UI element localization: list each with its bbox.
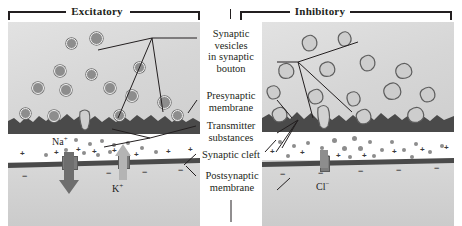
potassium-channel — [118, 155, 130, 169]
sodium-charge: + — [64, 135, 68, 143]
charge-negative: − — [358, 167, 363, 175]
label-postsynaptic-membrane: Postsynaptic membrane — [196, 170, 268, 193]
label-presynaptic-membrane: Presynaptic membrane — [196, 90, 266, 113]
charge-negative: − — [280, 170, 285, 178]
transmitter-dot — [44, 153, 48, 157]
charge-positive: + — [420, 146, 425, 154]
charge-positive: + — [20, 150, 25, 158]
synapse-diagram: Excitatory Inhibitory — [0, 0, 462, 226]
label-line: substances — [196, 132, 266, 144]
label-transmitter-substances: Transmitter substances — [196, 120, 266, 143]
transmitter-dot — [306, 141, 310, 145]
vesicle — [126, 90, 138, 102]
label-line: Postsynaptic — [196, 170, 268, 182]
vesicle — [114, 110, 125, 121]
panel-inhibitory: + + + + + + + − − − − − Cl− — [262, 22, 454, 226]
vesicle — [54, 65, 66, 77]
transmitter-dot — [428, 150, 432, 154]
label-synaptic-vesicles: Synaptic vesicles in synaptic bouton — [198, 28, 264, 74]
charge-positive: + — [300, 149, 305, 157]
label-line: vesicles — [198, 40, 264, 52]
vesicle — [90, 32, 103, 45]
charge-positive: + — [76, 146, 81, 154]
charge-negative: − — [64, 171, 69, 179]
vesicle — [20, 108, 31, 119]
transmitter-dot — [320, 146, 324, 150]
charge-positive: + — [166, 148, 171, 156]
transmitter-dot — [286, 154, 290, 158]
header-rule-right-b — [350, 11, 452, 13]
chloride-label: Cl− — [316, 180, 329, 192]
label-line: Synaptic cleft — [194, 149, 268, 161]
vesicle — [172, 110, 183, 121]
potassium-charge: + — [119, 182, 123, 190]
vesicle — [66, 38, 77, 49]
charge-positive: + — [444, 144, 449, 152]
label-line: in synaptic — [198, 51, 264, 63]
transmitter-dot — [140, 146, 144, 150]
header-center-divider — [230, 9, 231, 19]
charge-negative: − — [142, 168, 147, 176]
vesicle — [104, 82, 116, 94]
transmitter-dot — [100, 139, 104, 143]
transmitter-dot — [154, 150, 158, 154]
header-rule-right-a — [240, 11, 290, 13]
charge-positive: + — [362, 152, 367, 160]
vesicle — [158, 96, 171, 109]
charge-positive: + — [392, 148, 397, 156]
charge-positive: + — [112, 147, 117, 155]
sodium-channel — [62, 156, 78, 170]
label-line: bouton — [198, 63, 264, 75]
vesicle — [134, 62, 145, 73]
transmitter-dot — [410, 155, 414, 159]
charge-positive: + — [270, 148, 275, 156]
transmitter-dot — [278, 140, 282, 144]
charge-positive: + — [92, 148, 97, 156]
charge-negative: − — [22, 172, 27, 180]
potassium-label: K+ — [112, 182, 123, 194]
transmitter-dot — [292, 144, 296, 148]
presynaptic-bouton-right — [262, 22, 454, 126]
transmitter-dot — [348, 155, 352, 159]
postsynaptic-cell-left — [8, 162, 200, 226]
label-line: membrane — [196, 102, 266, 114]
vesicle — [60, 84, 72, 96]
label-synaptic-cleft: Synaptic cleft — [194, 149, 268, 161]
chloride-channel — [320, 156, 330, 172]
transmitter-dot — [368, 140, 372, 144]
transmitter-dot — [64, 148, 68, 152]
charge-positive: + — [188, 146, 193, 154]
header-bracket-left-start — [8, 11, 10, 20]
charge-negative: − — [178, 166, 183, 174]
label-line: Transmitter — [196, 120, 266, 132]
header-title-excitatory: Excitatory — [66, 5, 128, 17]
transmitter-dot — [372, 154, 376, 158]
transmitter-dot — [342, 146, 347, 151]
transmitter-dot — [126, 141, 130, 145]
header-bracket-right-start — [240, 11, 242, 20]
header-rule-left-b — [130, 11, 200, 13]
charge-positive: + — [336, 152, 341, 160]
transmitter-dot — [88, 142, 92, 146]
vesicle — [32, 82, 44, 94]
label-line: Presynaptic — [196, 90, 266, 102]
transmitter-dot — [82, 151, 86, 155]
label-line: Synaptic — [198, 28, 264, 40]
vesicle — [48, 110, 60, 122]
chloride-charge: − — [325, 180, 329, 188]
charge-positive: + — [134, 151, 139, 159]
header-title-inhibitory: Inhibitory — [290, 5, 350, 17]
label-line: membrane — [196, 182, 268, 194]
charge-negative: − — [396, 166, 401, 174]
transmitter-dot — [414, 142, 418, 146]
panel-excitatory: + + + + + + + + − − − − − Na+ K+ — [8, 22, 200, 226]
header-bracket-right-end — [450, 11, 452, 20]
transmitter-dot — [74, 138, 78, 142]
sodium-label: Na+ — [52, 135, 68, 147]
header-bracket-left-end — [198, 11, 200, 20]
charge-positive: + — [54, 149, 59, 157]
transmitter-dot — [402, 148, 406, 152]
transmitter-dot — [352, 136, 357, 141]
vesicle — [86, 69, 97, 80]
sodium-symbol: Na — [52, 136, 64, 147]
